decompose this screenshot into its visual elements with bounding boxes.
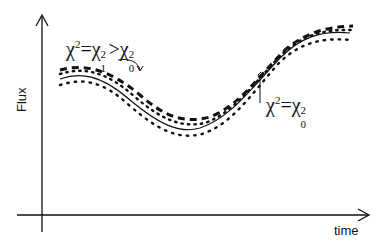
subscript: 1 (101, 62, 107, 74)
chi2-annotation-best-fit: χ2=χ20 (266, 94, 309, 117)
chi2-annotation-alternative: χ2=χ21>χ20 (66, 38, 137, 61)
superscript: 2 (301, 104, 307, 116)
light-curve-diagram (0, 0, 386, 246)
subscript: 0 (129, 62, 135, 74)
greater-than-sign: > (109, 38, 120, 60)
chi-symbol: χ (66, 38, 75, 60)
superscript: 2 (101, 48, 107, 60)
chi-symbol: χ (292, 94, 301, 116)
y-axis-label: Flux (14, 87, 29, 112)
equals-sign: = (280, 94, 291, 116)
equals-sign: = (80, 38, 91, 60)
subscript: 0 (301, 118, 307, 130)
x-axis-label: time (334, 223, 359, 238)
chi-symbol: χ (92, 38, 101, 60)
superscript: 2 (129, 48, 135, 60)
chi-symbol: χ (266, 94, 275, 116)
chi-symbol: χ (120, 38, 129, 60)
